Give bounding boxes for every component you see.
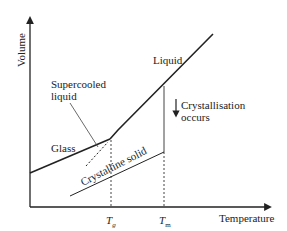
tm-label: Tm: [159, 214, 171, 229]
crystallisation-label-1: Crystallisation: [181, 99, 246, 111]
glass-label: Glass: [51, 142, 75, 154]
crystallisation-label-2: occurs: [181, 111, 210, 123]
tg-label: Tg: [106, 214, 116, 229]
liquid-label: Liquid: [153, 54, 183, 66]
crystalline-solid-label: Crystalline solid: [78, 144, 148, 188]
supercooled-label-1: Supercooled: [51, 78, 106, 90]
volume-temperature-diagram: Volume Temperature Liquid Supercooled li…: [0, 0, 287, 231]
x-axis-label: Temperature: [219, 212, 275, 224]
y-axis-label: Volume: [15, 33, 27, 67]
supercooled-leader-line: [70, 103, 98, 147]
supercooled-label-2: liquid: [51, 90, 77, 102]
liquid-line: [110, 34, 213, 139]
